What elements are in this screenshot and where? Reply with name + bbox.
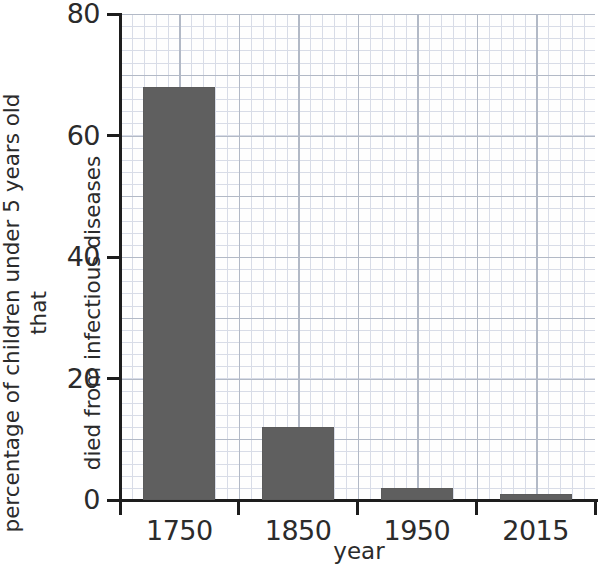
- y-axis-label-line-2: died from infectious diseases: [79, 73, 106, 553]
- bar-2015: [500, 494, 572, 500]
- bar-1950: [381, 488, 453, 500]
- bar-1850: [262, 427, 334, 500]
- x-axis-label: year: [120, 538, 598, 564]
- bar-chart: 020406080 1750185019502015 percentage of…: [0, 0, 603, 564]
- x-tick-2: [356, 500, 359, 515]
- y-axis-label: percentage of children under 5 years old…: [0, 73, 133, 553]
- y-tick-label-80: 80: [0, 0, 100, 27]
- y-tick-80: [107, 13, 121, 16]
- y-axis-label-line-1: percentage of children under 5 years old…: [0, 73, 52, 553]
- bar-1750: [143, 87, 215, 500]
- x-tick-3: [475, 500, 478, 515]
- x-tick-1: [237, 500, 240, 515]
- x-tick-4: [594, 500, 597, 515]
